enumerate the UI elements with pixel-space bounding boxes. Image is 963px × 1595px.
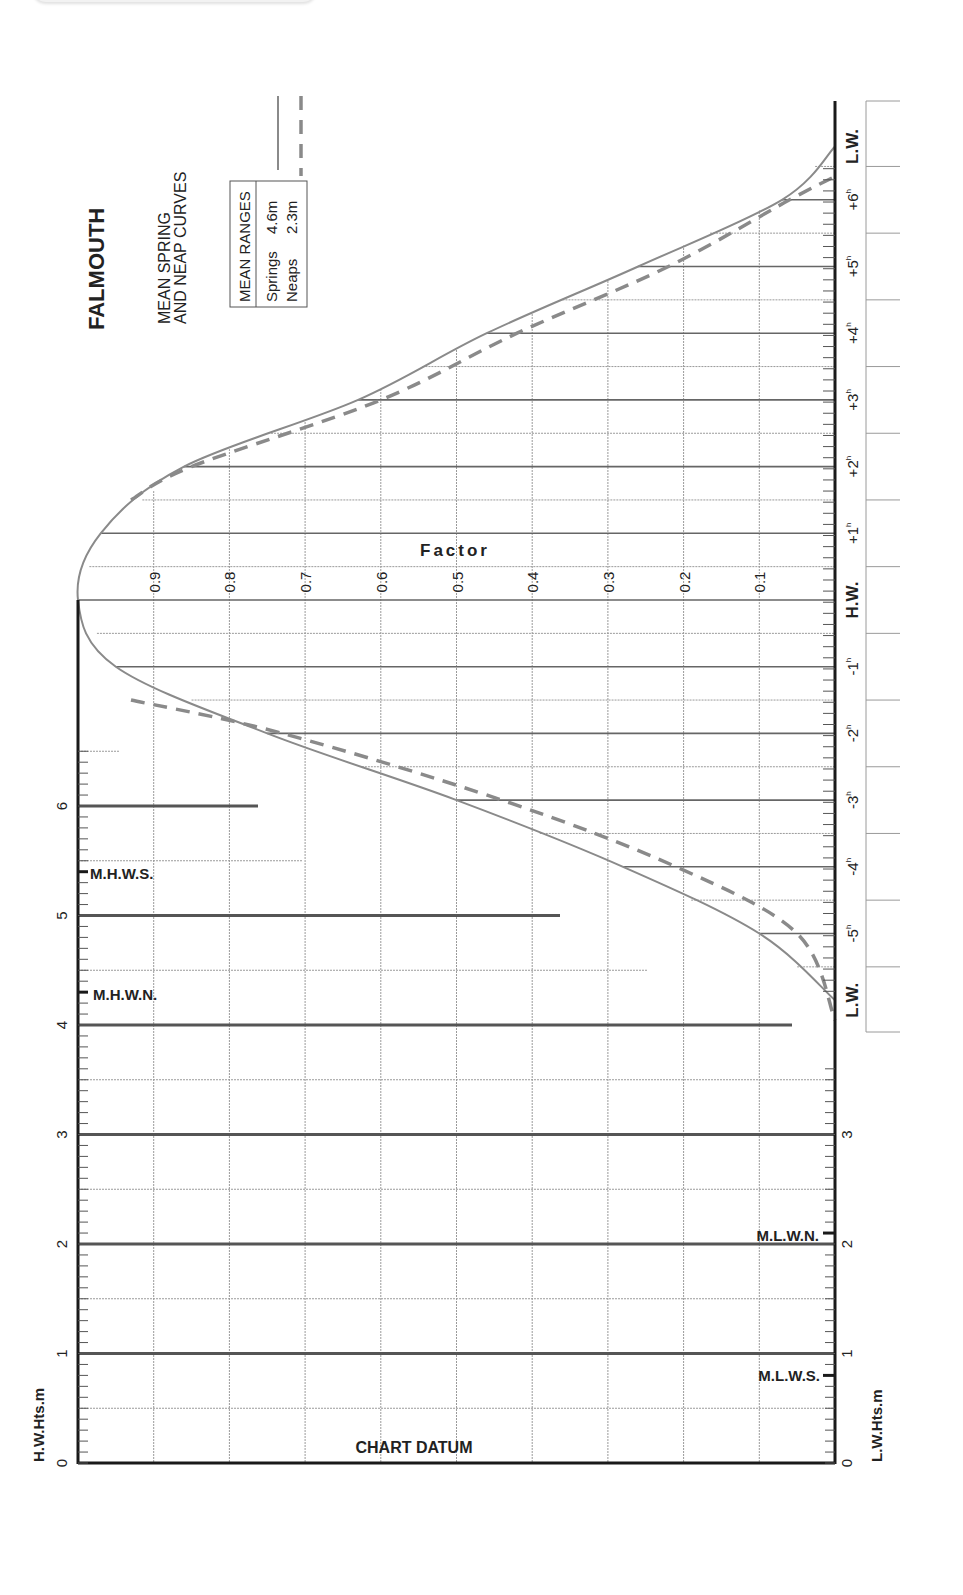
legend-springs-value: 4.6m bbox=[263, 201, 280, 234]
factor-tick-label: 0.4 bbox=[524, 572, 541, 593]
hw-height-tick-label: 1 bbox=[53, 1349, 70, 1357]
time-tick-label: -1h bbox=[844, 658, 861, 676]
hw-height-tick-label: 5 bbox=[53, 911, 70, 919]
factor-tick-label: 0.1 bbox=[751, 572, 768, 593]
factor-tick-label: 0.3 bbox=[600, 572, 617, 593]
legend-springs-label: Springs bbox=[263, 251, 280, 302]
legend-neaps-value: 2.3m bbox=[283, 201, 300, 234]
time-tick-label: +6h bbox=[844, 189, 861, 211]
hw-height-tick-label: 3 bbox=[53, 1130, 70, 1138]
hw-height-tick-label: 6 bbox=[53, 802, 70, 810]
time-tick-label: -2h bbox=[844, 725, 861, 743]
chart-title: FALMOUTH bbox=[84, 208, 109, 330]
factor-tick-label: 0.7 bbox=[297, 572, 314, 593]
level-mhwn: M.H.W.N. bbox=[93, 986, 157, 1003]
legend-neaps-label: Neaps bbox=[283, 259, 300, 302]
time-tick-label: +2h bbox=[844, 456, 861, 478]
hw-height-tick-label: 4 bbox=[53, 1021, 70, 1029]
level-mlwn: M.L.W.N. bbox=[757, 1227, 820, 1244]
level-mlws: M.L.W.S. bbox=[758, 1367, 820, 1384]
factor-tick-label: 0.5 bbox=[449, 572, 466, 593]
time-tick-label: -5h bbox=[844, 925, 861, 943]
lw-height-tick-label: 3 bbox=[838, 1130, 855, 1138]
lw-heights-axis-label: L.W.Hts.m bbox=[868, 1389, 885, 1462]
time-tick-label: -3h bbox=[844, 791, 861, 809]
factor-tick-label: 0.8 bbox=[221, 572, 238, 593]
chart-datum-label: CHART DATUM bbox=[355, 1439, 472, 1456]
chart-subtitle-line1: MEAN SPRING bbox=[156, 212, 173, 324]
lw-height-tick-label: 2 bbox=[838, 1240, 855, 1248]
neaps-curve-flood bbox=[131, 700, 835, 1020]
factor-label: Factor bbox=[420, 541, 490, 560]
tidal-curve-chart: FALMOUTH MEAN SPRING AND NEAP CURVES MEA… bbox=[0, 0, 963, 1595]
lw-height-tick-label: 0 bbox=[838, 1459, 855, 1467]
factor-tick-label: 0.6 bbox=[373, 572, 390, 593]
time-tick-label: L.W. bbox=[843, 983, 862, 1018]
grid-lines bbox=[76, 80, 900, 1463]
hw-heights-axis-label: H.W.Hts.m bbox=[30, 1388, 47, 1462]
time-tick-label: L.W. bbox=[843, 129, 862, 164]
time-tick-label: +5h bbox=[844, 256, 861, 278]
lw-height-tick-label: 1 bbox=[838, 1349, 855, 1357]
hw-height-tick-label: 2 bbox=[53, 1240, 70, 1248]
time-tick-label: H.W. bbox=[843, 582, 862, 619]
chart-subtitle-line2: AND NEAP CURVES bbox=[172, 172, 189, 324]
time-tick-label: +1h bbox=[844, 523, 861, 545]
factor-tick-label: 0.2 bbox=[676, 572, 693, 593]
level-mhws: M.H.W.S. bbox=[90, 865, 153, 882]
time-tick-label: -4h bbox=[844, 858, 861, 876]
legend-header: MEAN RANGES bbox=[236, 191, 253, 302]
time-tick-label: +3h bbox=[844, 389, 861, 411]
factor-tick-label: 0.9 bbox=[146, 572, 163, 593]
mask-upper bbox=[76, 80, 835, 600]
hw-height-tick-label: 0 bbox=[53, 1459, 70, 1467]
time-tick-label: +4h bbox=[844, 322, 861, 344]
